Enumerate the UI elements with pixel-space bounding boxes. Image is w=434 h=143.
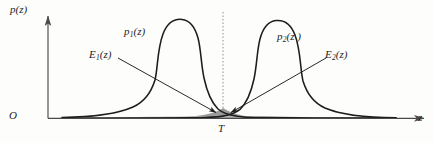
figure-canvas: [0, 0, 434, 143]
error-region-E2-label: E2(z): [325, 49, 347, 61]
axis-group: [48, 16, 424, 118]
error-region-E1-label: E1(z): [89, 49, 111, 61]
error-E1-label-arg: (z): [100, 48, 112, 60]
curve-p2-label-base: p: [277, 30, 283, 42]
x-axis-label: z: [418, 112, 422, 123]
threshold-label: T: [218, 123, 224, 134]
probability-density-figure: p(z) O z p1(z) p2(z ) E1(z) E2(z) T: [0, 0, 434, 143]
origin-label: O: [9, 110, 17, 121]
curve-p2-label-arg: (z ): [287, 30, 301, 42]
curve-p1-label-base: p: [124, 25, 130, 37]
error-E2-label-arg: (z): [336, 48, 348, 60]
curve-p1: [62, 19, 396, 118]
error-E2-label-base: E: [325, 48, 332, 60]
e1-leader-line: [118, 58, 216, 113]
y-axis-label: p(z): [10, 4, 27, 15]
curve-p1-label-arg: (z): [134, 25, 146, 37]
e2-leader-line: [231, 58, 326, 113]
error-E1-label-base: E: [89, 48, 96, 60]
curve-p2: [66, 21, 396, 119]
curve-p2-label: p2(z ): [277, 31, 301, 43]
curve-p1-label: p1(z): [124, 26, 145, 38]
